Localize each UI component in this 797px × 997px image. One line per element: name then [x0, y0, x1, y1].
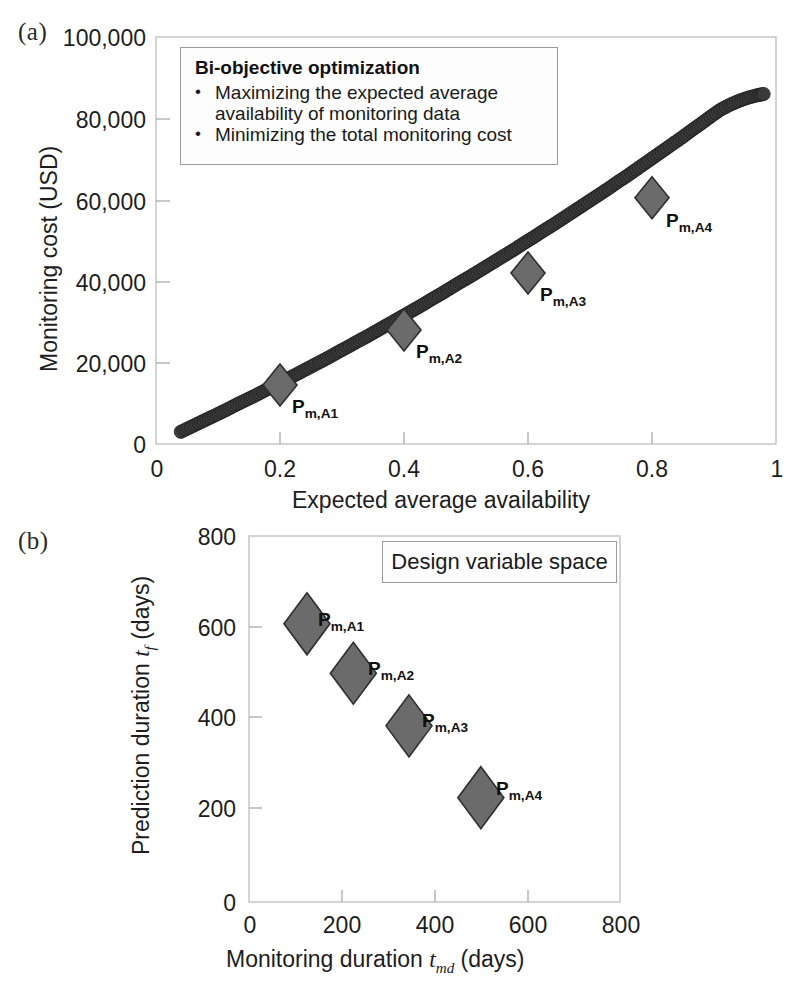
point-label-pma4-sub: m,A4: [679, 220, 712, 235]
point-label-pma1-sub: m,A1: [305, 406, 338, 421]
point-label-b-pma2-p: P: [368, 658, 381, 679]
callout-title: Bi-objective optimization: [195, 57, 545, 79]
panel-b-ytick-0: 0: [140, 890, 236, 917]
point-label-b-pma3-sub: m,A3: [435, 720, 468, 735]
point-label-pma1-p: P: [292, 396, 305, 417]
bullet-dot-icon: •: [195, 82, 215, 102]
point-label-pma2-sub: m,A2: [429, 351, 462, 366]
design-variable-space-label: Design variable space: [391, 549, 607, 575]
bi-objective-callout: Bi-objective optimization • Maximizing t…: [180, 47, 558, 165]
panel-b-xtick-400: 400: [408, 912, 462, 939]
panel-b-y-axis-title-symbol: t: [129, 650, 154, 656]
design-variable-space-callout: Design variable space: [382, 541, 617, 583]
point-label-pma4-p: P: [666, 210, 679, 231]
point-label-pma3-p: P: [540, 284, 553, 305]
point-label-pma4: Pm,A4: [666, 210, 712, 235]
point-label-b-pma1: Pm,A1: [318, 609, 364, 634]
panel-a-xtick-0.2: 0.2: [258, 456, 302, 483]
point-label-b-pma1-p: P: [318, 609, 331, 630]
panel-b-x-axis-title-subscript: md: [436, 959, 455, 976]
panel-a-xtick-0.4: 0.4: [382, 456, 426, 483]
selected-marker-pma4: [635, 177, 669, 219]
panel-a-xtick-0.8: 0.8: [630, 456, 674, 483]
pareto-point: [757, 87, 770, 100]
panel-b-xtick-800: 800: [594, 912, 648, 939]
point-label-pma1: Pm,A1: [292, 396, 338, 421]
panel-b-x-axis-title: Monitoring duration tmd (days): [226, 946, 525, 977]
panel-a-y-axis-title: Monitoring cost (USD): [36, 146, 63, 372]
panel-b-ytick-800: 800: [140, 524, 236, 551]
point-label-b-pma2-sub: m,A2: [381, 668, 414, 683]
bullet-dot-icon: •: [195, 124, 215, 144]
point-label-b-pma4: Pm,A4: [496, 778, 542, 803]
callout-bullet-1-text: Maximizing the expected average availabi…: [215, 82, 545, 125]
panel-b-xtick-0: 0: [241, 912, 259, 939]
panel-a-xtick-0: 0: [148, 456, 166, 483]
callout-bullet-1: • Maximizing the expected average availa…: [195, 82, 545, 125]
panel-b-y-axis-title-unit: (days): [128, 576, 154, 646]
panel-b-x-axis-title-main: Monitoring duration: [226, 946, 429, 972]
point-label-b-pma3-p: P: [422, 710, 435, 731]
panel-b-xtick-600: 600: [501, 912, 555, 939]
panel-a-ytick-100000: 100,000: [46, 25, 146, 52]
panel-a-ytick-0: 0: [46, 432, 146, 459]
point-label-b-pma1-sub: m,A1: [331, 619, 364, 634]
panel-a-xtick-0.6: 0.6: [506, 456, 550, 483]
panel-b-y-axis-title-subscript: f: [141, 646, 158, 650]
figure-root: (a) (b): [0, 0, 797, 997]
panel-a-x-axis-title: Expected average availability: [292, 487, 590, 514]
point-label-pma3: Pm,A3: [540, 284, 586, 309]
panel-b-y-axis-title-main: Prediction duration: [128, 657, 154, 855]
point-label-pma3-sub: m,A3: [553, 294, 586, 309]
point-label-b-pma4-sub: m,A4: [509, 788, 542, 803]
point-label-pma2-p: P: [416, 341, 429, 362]
panel-b-selected-markers: [284, 593, 504, 829]
panel-a-selected-markers: [263, 177, 669, 406]
panel-b-y-axis-title: Prediction duration tf (days): [128, 576, 159, 855]
panel-b-xtick-200: 200: [315, 912, 369, 939]
callout-bullet-2: • Minimizing the total monitoring cost: [195, 124, 545, 145]
callout-bullet-2-text: Minimizing the total monitoring cost: [215, 124, 545, 145]
panel-a-xtick-1: 1: [768, 456, 786, 483]
panel-a-ytick-80000: 80,000: [46, 107, 146, 134]
panel-b-x-axis-title-unit: (days): [454, 946, 524, 972]
point-label-b-pma4-p: P: [496, 778, 509, 799]
point-label-b-pma3: Pm,A3: [422, 710, 468, 735]
point-label-pma2: Pm,A2: [416, 341, 462, 366]
point-label-b-pma2: Pm,A2: [368, 658, 414, 683]
